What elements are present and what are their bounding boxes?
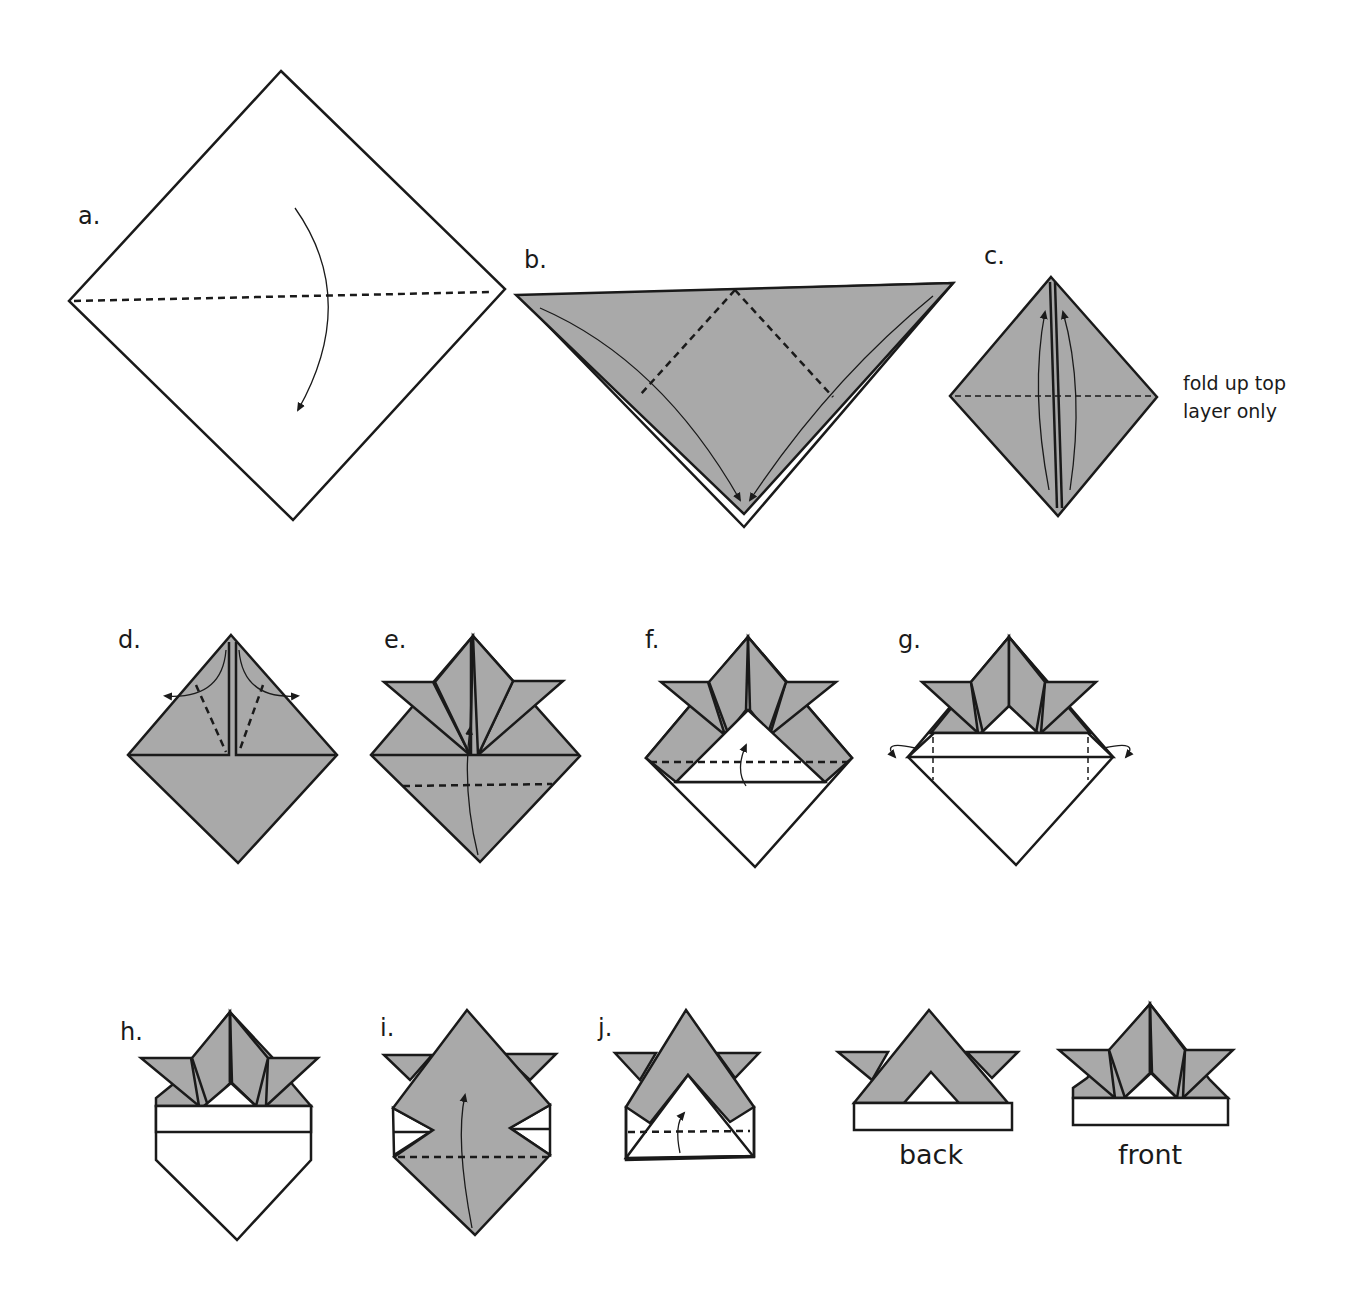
step-b: b. [516,246,953,527]
step-h-label: h. [120,1018,143,1046]
step-d-paper [128,635,337,863]
step-c-note-line-2: layer only [1183,400,1277,422]
step-a-label: a. [78,202,100,230]
step-b-label: b. [524,246,547,274]
step-c-label: c. [984,242,1005,270]
step-j-label: j. [597,1014,612,1042]
step-a: a. [69,71,505,520]
step-e-label: e. [384,626,406,654]
step-b-front-layer [516,283,953,514]
step-g-band [908,733,1113,757]
back-caption: back [899,1139,964,1170]
step-i: i. [380,1010,556,1235]
step-c: c. fold up top layer only [950,242,1286,516]
step-f: f. [645,626,852,867]
step-e: e. [371,626,580,862]
step-g: g. [891,626,1130,865]
result-back: back [838,1010,1018,1170]
step-g-label: g. [898,626,921,654]
origami-diagram: a. b. c. fold up top layer only d. [0,0,1359,1299]
front-band [1073,1098,1228,1125]
result-front: front [1059,1004,1233,1170]
step-i-label: i. [380,1014,394,1042]
step-j: j. [597,1010,759,1160]
step-d-label: d. [118,626,141,654]
step-h: h. [120,1012,318,1240]
step-f-label: f. [645,626,659,654]
back-band [854,1103,1012,1130]
front-caption: front [1118,1139,1182,1170]
step-h-band [156,1106,311,1132]
step-a-paper [69,71,505,520]
step-d: d. [118,626,337,863]
step-c-note-line-1: fold up top [1183,372,1286,394]
